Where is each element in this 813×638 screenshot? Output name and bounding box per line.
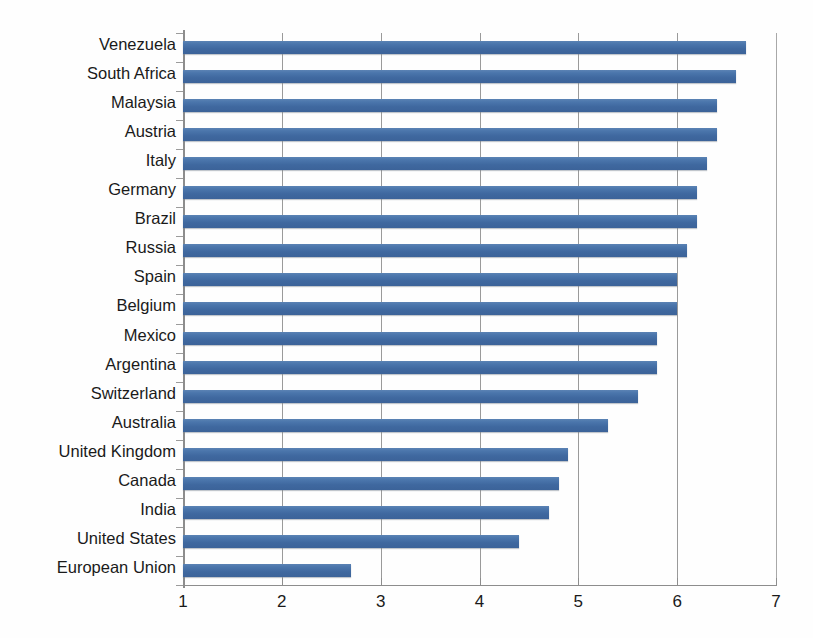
x-tick-label-1: 1	[163, 592, 203, 612]
bar-row	[183, 469, 776, 498]
category-label: Italy	[0, 151, 176, 170]
y-tick	[176, 120, 183, 121]
y-tick	[176, 294, 183, 295]
y-tick	[176, 178, 183, 179]
bar-row	[183, 440, 776, 469]
bar[interactable]	[183, 564, 351, 577]
category-label: Canada	[0, 471, 176, 490]
bar-row	[183, 120, 776, 149]
category-label: Russia	[0, 238, 176, 257]
category-label: European Union	[0, 558, 176, 577]
bar-row	[183, 527, 776, 556]
bar-row	[183, 91, 776, 120]
bar-row	[183, 353, 776, 382]
x-tick-label-3: 3	[361, 592, 401, 612]
bar-row	[183, 382, 776, 411]
y-tick	[176, 556, 183, 557]
y-tick	[176, 33, 183, 34]
bar[interactable]	[183, 390, 638, 403]
category-label: Belgium	[0, 296, 176, 315]
y-tick	[176, 585, 183, 586]
x-tick-label-7: 7	[756, 592, 796, 612]
bar[interactable]	[183, 419, 608, 432]
bar-row	[183, 236, 776, 265]
category-label: Austria	[0, 122, 176, 141]
bar[interactable]	[183, 70, 736, 83]
bar-row	[183, 265, 776, 294]
category-label: Argentina	[0, 355, 176, 374]
bar[interactable]	[183, 535, 519, 548]
category-label: Spain	[0, 267, 176, 286]
category-label: Switzerland	[0, 384, 176, 403]
x-tick-label-5: 5	[558, 592, 598, 612]
bar[interactable]	[183, 128, 717, 141]
x-tick-label-4: 4	[460, 592, 500, 612]
category-label: Australia	[0, 413, 176, 432]
category-label: Germany	[0, 180, 176, 199]
bar[interactable]	[183, 506, 549, 519]
bar-row	[183, 411, 776, 440]
bar[interactable]	[183, 244, 687, 257]
y-tick	[176, 265, 183, 266]
bar-chart: 1234567 VenezuelaSouth AfricaMalaysiaAus…	[0, 0, 813, 638]
category-label: Mexico	[0, 326, 176, 345]
bar-row	[183, 324, 776, 353]
category-label: United States	[0, 529, 176, 548]
y-tick	[176, 324, 183, 325]
y-tick	[176, 62, 183, 63]
y-tick	[176, 527, 183, 528]
y-tick	[176, 382, 183, 383]
bar[interactable]	[183, 361, 657, 374]
y-tick	[176, 411, 183, 412]
x-tick-label-2: 2	[262, 592, 302, 612]
bar[interactable]	[183, 477, 559, 490]
bar[interactable]	[183, 302, 677, 315]
bar[interactable]	[183, 186, 697, 199]
y-tick	[176, 236, 183, 237]
category-label: Malaysia	[0, 93, 176, 112]
bar[interactable]	[183, 157, 707, 170]
bar[interactable]	[183, 332, 657, 345]
y-tick	[176, 207, 183, 208]
category-label: Brazil	[0, 209, 176, 228]
category-label: South Africa	[0, 64, 176, 83]
x-tick-label-6: 6	[657, 592, 697, 612]
plot-area	[183, 33, 776, 585]
bar[interactable]	[183, 99, 717, 112]
category-label: Venezuela	[0, 35, 176, 54]
gridline-7	[776, 33, 777, 585]
bar-row	[183, 33, 776, 62]
y-tick	[176, 149, 183, 150]
y-tick	[176, 469, 183, 470]
bar-row	[183, 178, 776, 207]
bar-row	[183, 62, 776, 91]
bar-row	[183, 556, 776, 585]
bar[interactable]	[183, 448, 568, 461]
y-tick	[176, 498, 183, 499]
bar[interactable]	[183, 215, 697, 228]
bar[interactable]	[183, 273, 677, 286]
bar-row	[183, 498, 776, 527]
bar-row	[183, 207, 776, 236]
bar-row	[183, 149, 776, 178]
bar-row	[183, 294, 776, 323]
y-tick	[176, 440, 183, 441]
y-tick	[176, 91, 183, 92]
bar[interactable]	[183, 41, 746, 54]
x-tick-7	[776, 578, 777, 586]
category-label: United Kingdom	[0, 442, 176, 461]
y-tick	[176, 353, 183, 354]
category-label: India	[0, 500, 176, 519]
